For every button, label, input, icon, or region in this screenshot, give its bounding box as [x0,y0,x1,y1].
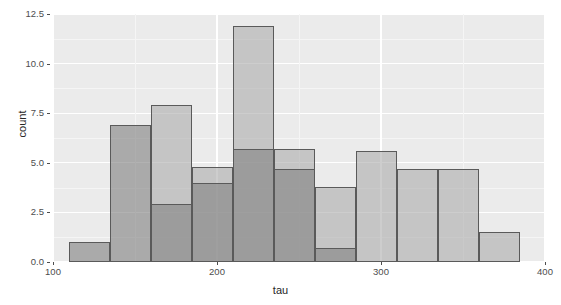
y-tick-mark [47,212,50,213]
x-tick-label: 400 [525,266,561,277]
x-tick-mark [217,262,218,265]
x-tick-mark [381,262,382,265]
histogram-bar [274,169,315,262]
y-tick-label: 2.5 [0,206,44,217]
histogram-bar [233,149,274,262]
histogram-bar [110,125,151,262]
histogram-bar [69,242,110,262]
y-tick-mark [47,262,50,263]
y-tick-mark [47,113,50,114]
y-tick-label: 12.5 [0,8,44,19]
histogram-bar [479,232,520,262]
x-axis-label: tau [0,284,561,296]
plot-panel [53,14,545,262]
histogram-bar [438,169,479,262]
y-tick-mark [47,14,50,15]
y-tick-mark [47,163,50,164]
histogram-figure: 0.02.55.07.510.012.5 100200300400 count … [0,0,561,305]
x-tick-label: 200 [197,266,237,277]
x-tick-label: 100 [33,266,73,277]
x-tick-mark [545,262,546,265]
x-tick-label: 300 [361,266,401,277]
y-tick-label: 10.0 [0,58,44,69]
histogram-bar [151,204,192,262]
histogram-bar [356,151,397,262]
y-tick-label: 5.0 [0,157,44,168]
y-axis-label: count [16,94,28,154]
histogram-bar [192,183,233,262]
x-tick-mark [53,262,54,265]
y-tick-mark [47,64,50,65]
gridline-x [544,14,545,262]
gridline-x [53,14,54,262]
histogram-bar [397,169,438,262]
histogram-bar [315,248,356,262]
